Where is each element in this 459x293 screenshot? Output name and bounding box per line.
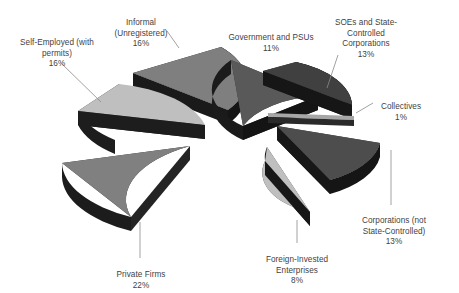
slice-label-collectives-text: Collectives (381, 102, 421, 111)
slice-label-informal: Informal (Unregistered) 16% (100, 8, 182, 60)
slice-label-collectives-pct: 1% (368, 113, 434, 123)
slice-label-corporations: Corporations (not State-Controlled) 13% (349, 206, 439, 258)
pie-chart: Self-Employed (with permits) 16% Informa… (0, 0, 459, 293)
slice-label-informal-pct: 16% (100, 39, 182, 49)
slice-label-soes-pct: 13% (322, 50, 410, 60)
slice-label-soes-text: SOEs and State- Controlled Corporations (335, 18, 397, 48)
slice-label-collectives: Collectives 1% (368, 92, 434, 134)
slice-label-corporations-text: Corporations (not State-Controlled) (362, 216, 426, 235)
slice-label-government-pct: 11% (216, 44, 326, 54)
pie-slice-private-firms[interactable] (62, 146, 190, 231)
slice-label-self-employed: Self-Employed (with permits) 16% (2, 28, 112, 80)
slice-label-government: Government and PSUs 11% (216, 23, 326, 65)
slice-label-self-employed-pct: 16% (2, 59, 112, 69)
slice-label-corporations-pct: 13% (349, 237, 439, 247)
slice-label-foreign-text: Foreign-Invested Enterprises (266, 255, 328, 274)
slice-label-private: Private Firms 22% (96, 260, 186, 293)
slice-label-private-text: Private Firms (117, 270, 166, 279)
slice-label-self-employed-text: Self-Employed (with permits) (20, 38, 94, 57)
slice-label-private-pct: 22% (96, 281, 186, 291)
slice-label-informal-text: Informal (Unregistered) (114, 18, 167, 37)
slice-label-soes: SOEs and State- Controlled Corporations … (322, 8, 410, 70)
slice-label-foreign: Foreign-Invested Enterprises 8% (250, 245, 344, 293)
slice-label-government-text: Government and PSUs (228, 33, 313, 42)
slice-label-foreign-pct: 8% (250, 276, 344, 286)
